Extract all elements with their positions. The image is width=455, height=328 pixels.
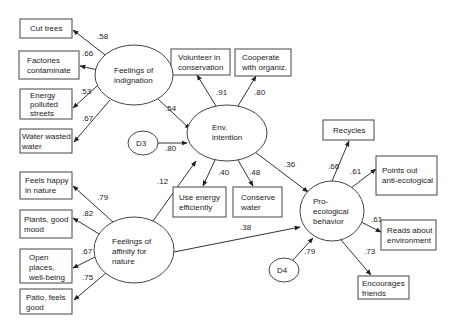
box-points-out: Points out anti-ecological (376, 156, 437, 195)
box-reads-about-label-1: Reads about (387, 226, 433, 235)
box-encourages-label-1: Encourages (362, 279, 405, 288)
box-feels-happy-label-1: Feels happy (25, 176, 69, 185)
coef-intention-use-energy: .40 (218, 168, 230, 177)
edge-affinity-open-places (73, 257, 95, 268)
box-factories-label-1: Factories (27, 56, 60, 65)
coef-indignation-factories: .66 (82, 49, 94, 58)
box-patio: Patio, feels good (20, 289, 72, 314)
edge-behavior-recycles (332, 141, 349, 181)
box-points-out-label-2: anti-ecological (382, 176, 433, 185)
box-water-label-2: water (21, 142, 42, 151)
disturbance-d4: D4 (269, 258, 299, 282)
edge-intention-volunteer (197, 75, 216, 106)
coef-affinity-feels-happy: .79 (97, 193, 109, 202)
latent-indignation: Feelings of indignation (95, 45, 173, 105)
box-conserve-water-label-1: Conserve (241, 193, 276, 202)
box-use-energy: Use energy efficiently (173, 187, 226, 217)
box-energy-label-3: streets (30, 109, 54, 118)
box-open-places-label-3: well-being (28, 273, 65, 282)
coef-affinity-intention: .12 (157, 177, 169, 186)
latent-behavior-label-2: ecological (313, 207, 349, 216)
latent-affinity-label-1: Feelings of (112, 237, 152, 246)
box-recycles-label: Recycles (333, 126, 365, 135)
latent-affinity: Feelings of affinity for nature (94, 217, 174, 283)
box-feels-happy-label-2: in nature (25, 186, 57, 195)
edge-affinity-behavior (174, 227, 300, 252)
box-volunteer: Volunteer in conservation (171, 49, 230, 75)
latent-affinity-label-2: affinity for (112, 247, 147, 256)
disturbance-d4-label: D4 (277, 266, 288, 275)
indicator-boxes: Cut trees Factories contaminate Energy p… (19, 19, 437, 314)
box-water-wasted: Water wasted water (20, 129, 72, 153)
latent-intention-label-1: Env. (212, 123, 227, 132)
latent-variables: Feelings of indignation Feelings of affi… (94, 45, 364, 283)
latent-intention-label-2: intention (212, 133, 242, 142)
box-volunteer-label-1: Volunteer in (178, 53, 220, 62)
box-cooperate: Cooperate with organiz. (235, 49, 291, 76)
box-volunteer-label-2: conservation (178, 63, 223, 72)
edge-behavior-encourages (341, 240, 371, 275)
coef-affinity-behavior: .38 (240, 223, 252, 232)
box-energy-label-1: Energy (30, 91, 55, 100)
box-factories-label-2: contaminate (27, 66, 71, 75)
box-conserve-water-label-2: water (240, 203, 261, 212)
box-patio-label-2: good (26, 303, 44, 312)
box-energy-polluted: Energy polluted streets (20, 89, 72, 119)
box-encourages-label-2: friends (362, 289, 386, 298)
latent-affinity-label-3: nature (112, 257, 135, 266)
coef-intention-behavior: .36 (284, 160, 296, 169)
box-plants: Plants, good mood (20, 210, 72, 238)
coef-behavior-recycles: .66 (328, 162, 340, 171)
box-energy-label-2: polluted (30, 100, 58, 109)
box-reads-about-label-2: environment (387, 236, 432, 245)
coef-indignation-water: .67 (82, 114, 94, 123)
box-cooperate-label-1: Cooperate (242, 53, 280, 62)
disturbance-d3: D3 (128, 131, 158, 155)
box-open-places-label-1: Open (29, 253, 49, 262)
box-feels-happy: Feels happy in nature (20, 172, 72, 199)
box-water-label-1: Water wasted (22, 132, 71, 141)
coef-behavior-points-out: .61 (350, 167, 362, 176)
coef-intention-cooperate: .80 (254, 88, 266, 97)
coef-intention-volunteer: .91 (216, 88, 228, 97)
latent-indignation-label-1: Feelings of (114, 66, 154, 75)
latent-behavior-label-3: behavior (313, 217, 344, 226)
box-patio-label-1: Patio, feels (26, 293, 66, 302)
edge-affinity-plants (73, 218, 99, 234)
latent-behavior-label-1: Pro- (313, 197, 328, 206)
box-points-out-label-1: Points out (382, 166, 418, 175)
coef-affinity-open-places: .67 (81, 247, 93, 256)
box-conserve-water: Conserve water (233, 187, 282, 217)
latent-behavior: Pro- ecological behavior (300, 181, 364, 241)
edge-intention-use-energy (203, 160, 215, 186)
latent-indignation-label-2: indignation (114, 76, 153, 85)
coef-d4-behavior: .79 (304, 247, 316, 256)
disturbance-d3-label: D3 (136, 139, 147, 148)
coef-indignation-energy: .53 (80, 87, 92, 96)
coef-affinity-plants: .82 (82, 209, 94, 218)
box-cut-trees-label: Cut trees (30, 24, 62, 33)
box-use-energy-label-2: efficiently (179, 203, 212, 212)
box-plants-label-2: mood (24, 225, 44, 234)
edge-intention-behavior (255, 152, 308, 192)
coef-d3-intention: .80 (165, 144, 177, 153)
coef-affinity-patio: .75 (82, 273, 94, 282)
box-cooperate-label-2: with organiz. (241, 63, 287, 72)
latent-intention: Env. intention (187, 105, 267, 161)
box-encourages: Encourages friends (358, 276, 409, 299)
box-reads-about: Reads about environment (381, 220, 436, 250)
box-open-places: Open places, well-being (20, 249, 72, 283)
box-open-places-label-2: places, (29, 263, 54, 272)
box-use-energy-label-1: Use energy (179, 193, 220, 202)
coef-indignation-cut-trees: .58 (97, 32, 109, 41)
coef-intention-conserve-water: .48 (249, 168, 261, 177)
box-plants-label-1: Plants, good (24, 215, 68, 224)
coef-behavior-encourages: .73 (364, 247, 376, 256)
coef-indignation-intention: .54 (165, 104, 177, 113)
sem-diagram: .58 .66 .53 .67 .54 .80 .91 .80 .40 .48 … (0, 0, 455, 328)
box-factories: Factories contaminate (19, 51, 79, 79)
box-recycles: Recycles (323, 120, 374, 140)
box-cut-trees: Cut trees (20, 19, 72, 38)
